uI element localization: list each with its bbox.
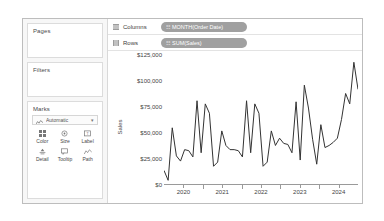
- pill-columns-text: MONTH(Order Date): [172, 24, 223, 30]
- y-tick-label: $25,000: [140, 156, 162, 162]
- x-tick-label: 2024: [332, 189, 345, 195]
- tooltip-bubble-icon: [59, 147, 70, 156]
- chevron-down-icon[interactable]: ▾: [91, 118, 94, 123]
- marks-buttons-grid: Color Size T: [28, 129, 102, 162]
- columns-grid-icon: [113, 24, 119, 30]
- x-tick-label: 2021: [216, 189, 229, 195]
- marks-tooltip-button[interactable]: Tooltip: [54, 147, 77, 162]
- rows-grid-icon: [113, 40, 119, 46]
- y-tick-label: $0: [155, 182, 162, 188]
- x-tick-mark: [222, 185, 223, 188]
- x-tick-mark: [339, 185, 340, 188]
- x-axis-separator: [242, 185, 243, 189]
- svg-text:T: T: [87, 132, 90, 136]
- marks-path-button[interactable]: Path: [76, 147, 99, 162]
- pill-rows-text: SUM(Sales): [172, 40, 202, 46]
- filters-card[interactable]: Filters: [27, 62, 103, 97]
- plot-wrapper: Sales $0$25,000$50,000$75,000$100,000$12…: [108, 51, 362, 203]
- marks-size-button[interactable]: Size: [54, 129, 77, 144]
- line-chart-plot: [164, 55, 358, 185]
- marks-color-button[interactable]: Color: [31, 129, 54, 144]
- x-tick-label: 2022: [254, 189, 267, 195]
- chart-viewport[interactable]: Sales $0$25,000$50,000$75,000$100,000$12…: [108, 51, 362, 203]
- pill-columns[interactable]: ☷ MONTH(Order Date): [161, 22, 247, 32]
- x-tick-mark: [300, 185, 301, 188]
- columns-shelf[interactable]: Columns ☷ MONTH(Order Date): [108, 19, 362, 35]
- marks-size-label: Size: [60, 139, 70, 144]
- pill-columns-prefix-icon: ☷: [166, 24, 170, 30]
- x-tick-label: 2020: [177, 189, 190, 195]
- marks-label-button[interactable]: T Label: [76, 129, 99, 144]
- label-tag-icon: T: [82, 129, 93, 138]
- marks-color-label: Color: [36, 139, 48, 144]
- worksheet-area: Columns ☷ MONTH(Order Date) Rows ☷ SUM(S…: [108, 19, 362, 203]
- marks-detail-label: Detail: [36, 157, 49, 162]
- y-tick-label: $125,000: [137, 52, 162, 58]
- y-tick-label: $100,000: [137, 78, 162, 84]
- filters-card-title: Filters: [28, 63, 102, 76]
- series-line: [164, 62, 358, 180]
- rows-shelf-label: Rows: [123, 40, 157, 46]
- y-tick-label: $75,000: [140, 104, 162, 110]
- marks-card[interactable]: Marks Automatic ▾: [27, 101, 103, 199]
- mark-type-dropdown[interactable]: Automatic ▾: [32, 115, 98, 125]
- marks-detail-button[interactable]: Detail: [31, 147, 54, 162]
- detail-icon: [37, 147, 48, 156]
- y-tick-label: $50,000: [140, 130, 162, 136]
- marks-path-label: Path: [83, 157, 93, 162]
- x-axis-separator: [280, 185, 281, 189]
- size-circle-icon: [59, 129, 70, 138]
- pages-card[interactable]: Pages: [27, 23, 103, 58]
- x-axis-separator: [319, 185, 320, 189]
- marks-tooltip-label: Tooltip: [58, 157, 72, 162]
- x-axis-separator: [203, 185, 204, 189]
- columns-shelf-label: Columns: [123, 24, 157, 30]
- tableau-worksheet: Pages Filters Marks Automatic ▾: [22, 18, 363, 204]
- mark-type-label: Automatic: [46, 117, 88, 123]
- x-tick-label: 2023: [293, 189, 306, 195]
- path-line-icon: [82, 147, 93, 156]
- rows-shelf[interactable]: Rows ☷ SUM(Sales): [108, 35, 362, 51]
- line-chart-icon: [36, 111, 43, 129]
- color-squares-icon: [37, 129, 48, 138]
- pill-rows[interactable]: ☷ SUM(Sales): [161, 38, 247, 48]
- x-tick-mark: [261, 185, 262, 188]
- line-chart-svg: [164, 55, 358, 185]
- x-tick-mark: [183, 185, 184, 188]
- x-axis: 20202021202220232024: [164, 184, 358, 203]
- marks-label-label: Label: [82, 139, 94, 144]
- pill-rows-prefix-icon: ☷: [166, 40, 170, 46]
- y-axis-tick-labels: $0$25,000$50,000$75,000$100,000$125,000: [118, 55, 162, 185]
- left-panel: Pages Filters Marks Automatic ▾: [23, 19, 108, 203]
- pages-card-title: Pages: [28, 24, 102, 37]
